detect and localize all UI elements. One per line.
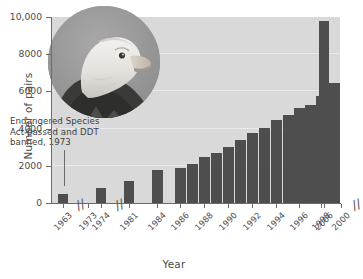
bar-1989 xyxy=(211,153,222,203)
axis-break-3: // xyxy=(350,197,363,212)
x-tick-label-1994: 1994 xyxy=(265,210,287,232)
y-axis-title: Number of pairs xyxy=(22,41,34,191)
x-tick-1974 xyxy=(101,204,102,208)
x-tick-label-1996: 1996 xyxy=(288,210,310,232)
x-tick-label-2000: 2000 xyxy=(330,210,352,232)
bar-1986 xyxy=(175,168,186,203)
bar-1992 xyxy=(247,133,258,203)
x-tick-1988 xyxy=(204,204,205,208)
x-tick-label-1986: 1986 xyxy=(169,210,191,232)
y-tick-8000 xyxy=(46,54,51,55)
bar-1995 xyxy=(283,115,294,203)
x-tick-1994 xyxy=(276,204,277,208)
x-tick-label-1992: 1992 xyxy=(241,210,263,232)
x-tick-label-1988: 1988 xyxy=(193,210,215,232)
bar-1987 xyxy=(187,164,198,203)
bar-1991 xyxy=(235,140,246,203)
x-tick-1963 xyxy=(63,204,64,208)
x-tick-label-1981: 1981 xyxy=(118,210,140,232)
bar-2000 xyxy=(336,83,340,203)
bar-2006 xyxy=(319,21,329,203)
x-tick-1998 xyxy=(321,204,322,208)
y-tick-0 xyxy=(46,203,51,204)
y-axis-line xyxy=(51,17,52,204)
bar-1984 xyxy=(152,170,163,203)
bar-1993 xyxy=(259,128,270,203)
x-tick-1986 xyxy=(180,204,181,208)
bar-1981 xyxy=(124,181,134,203)
x-tick-2000 xyxy=(341,204,342,208)
x-tick-1984 xyxy=(157,204,158,208)
annotation-leader-line xyxy=(64,150,65,186)
y-tick-10000 xyxy=(46,17,51,18)
y-tick-label-10000: 10,000 xyxy=(10,11,42,22)
x-tick-1981 xyxy=(129,204,130,208)
bar-1994 xyxy=(271,120,282,203)
x-tick-1992 xyxy=(252,204,253,208)
x-tick-1996 xyxy=(299,204,300,208)
bar-1990 xyxy=(223,147,234,204)
bar-1996 xyxy=(294,108,305,203)
x-axis-line xyxy=(51,203,341,204)
x-tick-2006 xyxy=(324,204,325,208)
x-axis-title: Year xyxy=(0,258,348,270)
x-tick-label-2006: 2006 xyxy=(313,210,335,232)
bar-1974 xyxy=(96,188,106,203)
bar-1988 xyxy=(199,157,210,203)
x-tick-1990 xyxy=(228,204,229,208)
bar-1997 xyxy=(305,105,316,204)
y-tick-6000 xyxy=(46,91,51,92)
bar-1963 xyxy=(58,194,68,203)
x-tick-label-1963: 1963 xyxy=(52,210,74,232)
x-tick-label-1984: 1984 xyxy=(146,210,168,232)
bald-eagle-photo xyxy=(48,6,160,118)
y-tick-2000 xyxy=(46,166,51,167)
y-tick-4000 xyxy=(46,129,51,130)
y-tick-label-0: 0 xyxy=(36,197,42,208)
x-tick-label-1990: 1990 xyxy=(217,210,239,232)
x-tick-1973 xyxy=(88,204,89,208)
